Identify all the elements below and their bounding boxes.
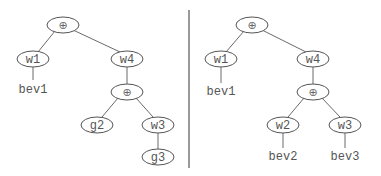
right-tree: ⊕ w1 w4 bev1 ⊕ w2 w3 bev2 bev3: [205, 17, 361, 164]
node-inner-operator: ⊕: [297, 84, 329, 100]
edge-op-g2: [102, 98, 118, 117]
node-w2: w2: [267, 117, 299, 133]
edge-root-w4: [73, 30, 120, 52]
node-w3: w3: [142, 117, 174, 133]
operator-symbol: ⊕: [308, 86, 317, 99]
node-w4: w4: [297, 51, 329, 67]
operator-symbol: ⊕: [122, 86, 131, 99]
node-root-operator: ⊕: [47, 17, 79, 33]
node-label: w3: [338, 119, 352, 133]
leaf-bev1: bev1: [207, 85, 236, 99]
node-label: w4: [306, 53, 320, 67]
left-tree: ⊕ w1 w4 bev1 ⊕ g2 w3 g3: [17, 17, 174, 165]
node-w3: w3: [329, 117, 361, 133]
edge-root-w1: [226, 31, 244, 52]
node-label: g2: [90, 119, 104, 133]
node-inner-operator: ⊕: [111, 84, 143, 100]
node-label: w3: [151, 119, 165, 133]
node-g2: g2: [81, 117, 113, 133]
edge-op-w3: [136, 98, 153, 117]
operator-symbol: ⊕: [247, 19, 256, 32]
leaf-bev2: bev2: [269, 150, 298, 164]
diagram-canvas: ⊕ w1 w4 bev1 ⊕ g2 w3 g3: [0, 0, 381, 176]
edge-root-w4: [262, 30, 306, 52]
node-root-operator: ⊕: [236, 17, 268, 33]
edge-root-w1: [38, 31, 55, 52]
node-label: g3: [151, 151, 165, 165]
operator-symbol: ⊕: [58, 19, 67, 32]
node-label: w4: [120, 53, 134, 67]
node-label: w1: [26, 53, 40, 67]
edge-op-w3: [322, 98, 340, 117]
edge-op-w2: [288, 98, 304, 117]
node-label: w2: [276, 119, 290, 133]
node-g3: g3: [142, 149, 174, 165]
node-w4: w4: [111, 51, 143, 67]
node-w1: w1: [205, 51, 237, 67]
leaf-bev1: bev1: [19, 83, 48, 97]
leaf-bev3: bev3: [331, 150, 360, 164]
node-label: w1: [214, 53, 228, 67]
node-w1: w1: [17, 51, 49, 67]
